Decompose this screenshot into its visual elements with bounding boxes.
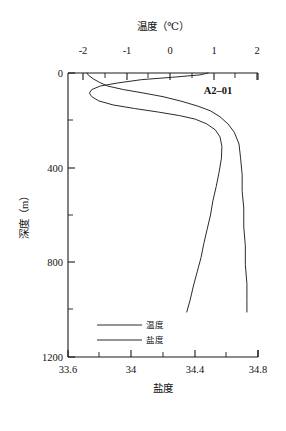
salinity-curve xyxy=(87,73,247,312)
depth-axis-title: 深度（m） xyxy=(18,191,30,239)
depth-tick-labels: 0 400 800 1200 xyxy=(42,68,63,363)
temperature-curve xyxy=(89,73,222,312)
legend-label-temperature: 温度 xyxy=(146,320,164,330)
salinity-axis-title: 盐度 xyxy=(153,382,174,394)
chart-legend: 温度 盐度 xyxy=(97,320,164,345)
depth-tick-label-0: 0 xyxy=(58,68,63,79)
temperature-tick-label-0: -2 xyxy=(79,45,88,56)
temperature-tick-label-1: -1 xyxy=(123,45,132,56)
station-label: A2–01 xyxy=(204,85,233,96)
bottom-axis-ticks xyxy=(68,350,258,357)
salinity-tick-labels: 33.6 34 34.4 34.8 xyxy=(59,364,267,375)
temperature-tick-labels: -2 -1 0 1 2 xyxy=(79,45,260,56)
temperature-tick-label-2: 0 xyxy=(167,45,172,56)
salinity-tick-label-2: 34.4 xyxy=(186,364,205,375)
chart-svg: 温度（℃） -2 -1 0 1 2 xyxy=(0,0,286,431)
temperature-tick-label-4: 2 xyxy=(254,45,259,56)
salinity-tick-label-0: 33.6 xyxy=(59,364,77,375)
temperature-axis-title: 温度（℃） xyxy=(137,20,189,32)
depth-tick-label-1: 400 xyxy=(47,163,63,174)
depth-axis-ticks xyxy=(68,73,75,357)
temperature-tick-label-3: 1 xyxy=(211,45,216,56)
salinity-tick-label-3: 34.8 xyxy=(249,364,267,375)
top-axis-ticks xyxy=(83,73,257,80)
depth-tick-label-2: 800 xyxy=(47,257,63,268)
salinity-tick-label-1: 34 xyxy=(126,364,137,375)
legend-label-salinity: 盐度 xyxy=(146,335,164,345)
temperature-salinity-profile-figure: 温度（℃） -2 -1 0 1 2 xyxy=(0,0,286,431)
depth-tick-label-3: 1200 xyxy=(42,352,63,363)
